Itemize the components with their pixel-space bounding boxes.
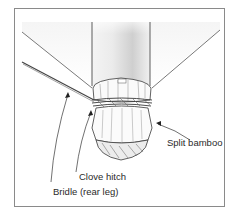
split-bamboo-body bbox=[92, 106, 152, 160]
label-split-bamboo: Split bamboo bbox=[167, 138, 222, 148]
spar-tube bbox=[92, 14, 150, 88]
label-clove-hitch: Clove hitch bbox=[79, 172, 126, 182]
label-bridle-rear-leg: Bridle (rear leg) bbox=[53, 187, 118, 197]
kite-junction-illustration bbox=[0, 0, 240, 218]
